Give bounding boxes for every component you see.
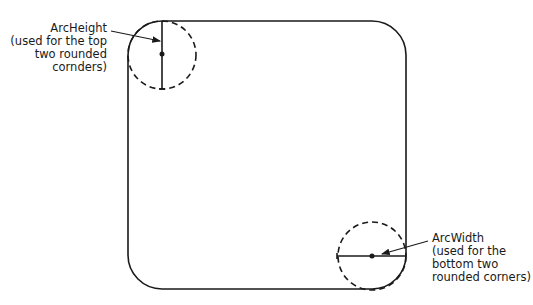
arc-width-label: ArcWidth (used for the bottom two rounde… [432,232,531,284]
arc-width-center-dot [370,254,375,259]
arc-height-desc-line-3: cornders) [10,61,107,74]
arc-height-center-dot [160,52,165,57]
arc-width-pointer-arrow [382,241,428,254]
rounded-rectangle-diagram: ArcHeight (used for the top two rounded … [0,0,533,305]
rounded-rectangle [128,21,406,289]
arc-width-desc-line-3: rounded corners) [432,271,531,284]
arc-height-label: ArcHeight (used for the top two rounded … [10,22,107,74]
